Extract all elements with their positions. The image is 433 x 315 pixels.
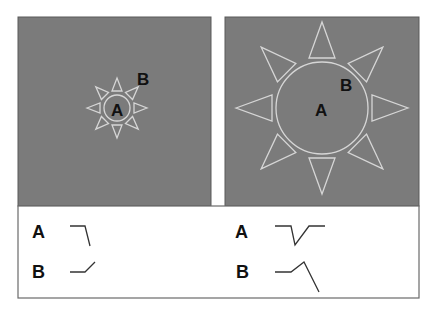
legend-right-a-label: A xyxy=(235,222,248,242)
legend-left-a-label: A xyxy=(32,222,45,242)
left-outer-label: B xyxy=(137,70,149,89)
figure: A B A B A B A B xyxy=(0,0,433,315)
legend-right-b-label: B xyxy=(236,262,249,282)
right-outer-label: B xyxy=(340,76,352,95)
right-center-label: A xyxy=(315,101,327,120)
left-center-label: A xyxy=(111,101,123,120)
legend-left-b-label: B xyxy=(32,262,45,282)
legend-box xyxy=(18,206,419,298)
